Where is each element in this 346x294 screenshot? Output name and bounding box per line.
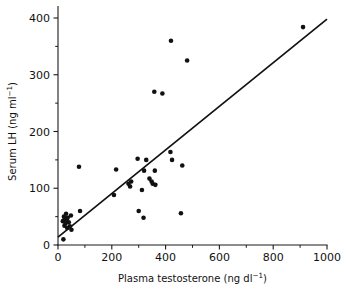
data-point — [160, 91, 165, 96]
data-point — [135, 156, 140, 161]
data-point — [129, 179, 134, 184]
y-tick-label: 400 — [29, 12, 50, 25]
data-point — [179, 211, 184, 216]
data-point — [136, 209, 141, 214]
data-point — [77, 164, 82, 169]
data-point — [112, 193, 117, 198]
data-point — [78, 209, 83, 214]
data-point — [301, 25, 306, 30]
data-point — [128, 184, 133, 189]
y-tick-label: 0 — [43, 239, 50, 252]
y-tick-label: 100 — [29, 182, 50, 195]
scatter-plot-figure: 02004006008001000 0100200300400 Plasma t… — [0, 0, 346, 294]
x-tick-label: 200 — [101, 251, 122, 264]
data-point — [61, 237, 66, 242]
data-point — [168, 150, 173, 155]
data-point — [152, 89, 157, 94]
data-point — [153, 183, 158, 188]
data-point — [185, 58, 190, 63]
y-axis-tick-labels: 0100200300400 — [29, 12, 50, 252]
data-point — [69, 227, 74, 232]
x-tick-label: 600 — [209, 251, 230, 264]
data-point — [141, 215, 146, 220]
x-tick-label: 800 — [263, 251, 284, 264]
data-point — [169, 38, 174, 43]
data-point — [180, 163, 185, 168]
y-tick-label: 200 — [29, 126, 50, 139]
data-point — [64, 211, 69, 216]
x-tick-label: 1000 — [313, 251, 341, 264]
data-point — [66, 220, 71, 225]
data-point — [144, 158, 149, 163]
data-point — [170, 158, 175, 163]
y-tick-label: 300 — [29, 69, 50, 82]
data-point — [69, 213, 74, 218]
x-axis-tick-labels: 02004006008001000 — [55, 251, 342, 264]
data-point — [153, 168, 158, 173]
data-point — [140, 188, 145, 193]
data-point — [142, 168, 147, 173]
data-points-group — [61, 25, 306, 242]
plot-canvas: 02004006008001000 0100200300400 Plasma t… — [0, 0, 346, 294]
x-axis-title: Plasma testosterone (ng dl−1) — [118, 271, 267, 285]
y-axis-major-ticks — [54, 18, 59, 245]
regression-fit-line — [58, 19, 327, 237]
data-point — [114, 167, 119, 172]
x-tick-label: 0 — [55, 251, 62, 264]
x-tick-label: 400 — [155, 251, 176, 264]
y-axis-title: Serum LH (ng ml−1) — [5, 82, 19, 181]
